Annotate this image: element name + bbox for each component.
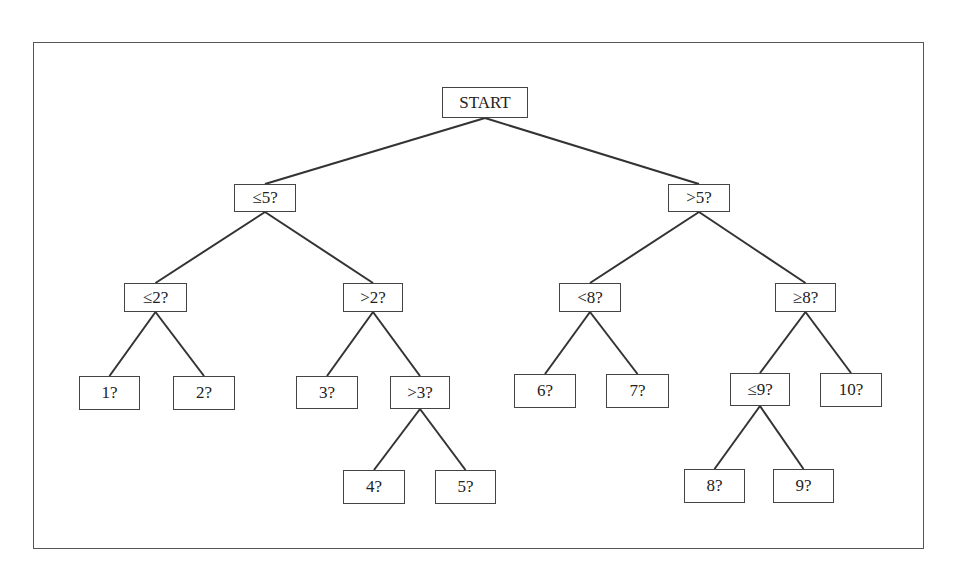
node-start: START [442, 87, 528, 118]
node-label: 9? [795, 476, 811, 496]
node-gt3: >3? [390, 376, 450, 409]
node-n8: 8? [684, 469, 745, 503]
edge-start-gt5 [485, 118, 699, 184]
node-n3: 3? [296, 376, 358, 409]
edge-le9-n9 [760, 406, 804, 469]
edge-le2-n1 [110, 312, 156, 376]
edge-lt8-n6 [545, 312, 590, 374]
edge-lt8-n7 [590, 312, 638, 374]
edge-le5-le2 [156, 212, 266, 283]
node-label: >2? [360, 288, 386, 308]
edge-start-le5 [265, 118, 485, 184]
edge-gt5-ge8 [699, 212, 806, 283]
node-le2: ≤2? [124, 283, 187, 312]
node-gt5: >5? [668, 184, 730, 212]
node-n2: 2? [173, 376, 235, 410]
edge-ge8-le9 [760, 312, 806, 373]
node-label: ≥8? [793, 288, 818, 308]
edge-le9-n8 [715, 406, 761, 469]
node-n6: 6? [514, 374, 576, 408]
node-le9: ≤9? [730, 373, 790, 406]
node-n4: 4? [343, 470, 405, 504]
node-label: ≤5? [252, 188, 277, 208]
node-label: ≤9? [747, 380, 772, 400]
node-lt8: <8? [559, 283, 621, 312]
node-n9: 9? [773, 469, 834, 503]
node-label: 5? [457, 477, 473, 497]
node-le5: ≤5? [234, 184, 296, 212]
node-n1: 1? [79, 376, 140, 410]
node-label: 3? [319, 383, 335, 403]
node-label: 7? [629, 381, 645, 401]
edge-gt2-n3 [327, 312, 373, 376]
node-gt2: >2? [343, 283, 403, 312]
node-ge8: ≥8? [775, 283, 836, 312]
node-label: START [459, 93, 510, 113]
node-label: <8? [577, 288, 603, 308]
node-label: 8? [706, 476, 722, 496]
node-label: 2? [196, 383, 212, 403]
edge-gt3-n4 [374, 409, 420, 470]
node-label: >3? [407, 383, 433, 403]
edge-gt2-gt3 [373, 312, 420, 376]
edge-gt5-lt8 [590, 212, 699, 283]
node-label: 6? [537, 381, 553, 401]
node-n5: 5? [435, 470, 496, 504]
edge-le2-n2 [156, 312, 205, 376]
edge-le5-gt2 [265, 212, 373, 283]
node-n7: 7? [606, 374, 669, 408]
node-label: >5? [686, 188, 712, 208]
node-label: 1? [101, 383, 117, 403]
node-label: ≤2? [143, 288, 168, 308]
node-label: 10? [839, 380, 864, 400]
node-label: 4? [366, 477, 382, 497]
edge-ge8-n10 [806, 312, 852, 373]
node-n10: 10? [820, 373, 882, 407]
edge-gt3-n5 [420, 409, 466, 470]
